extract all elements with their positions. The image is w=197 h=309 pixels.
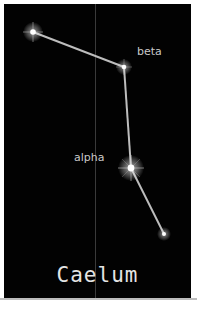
label-alpha: alpha	[74, 152, 105, 164]
line-star1-beta	[33, 32, 124, 67]
line-beta-alpha	[124, 67, 131, 168]
constellation-panel: beta alpha Caelum	[4, 4, 191, 298]
star-beta-icon	[116, 59, 132, 75]
star-1-icon	[23, 22, 43, 42]
star-4-icon	[157, 227, 171, 241]
label-beta: beta	[137, 46, 162, 58]
star-alpha-icon	[118, 155, 144, 181]
panel-bottom-border	[0, 298, 197, 300]
constellation-name: Caelum	[4, 263, 191, 287]
